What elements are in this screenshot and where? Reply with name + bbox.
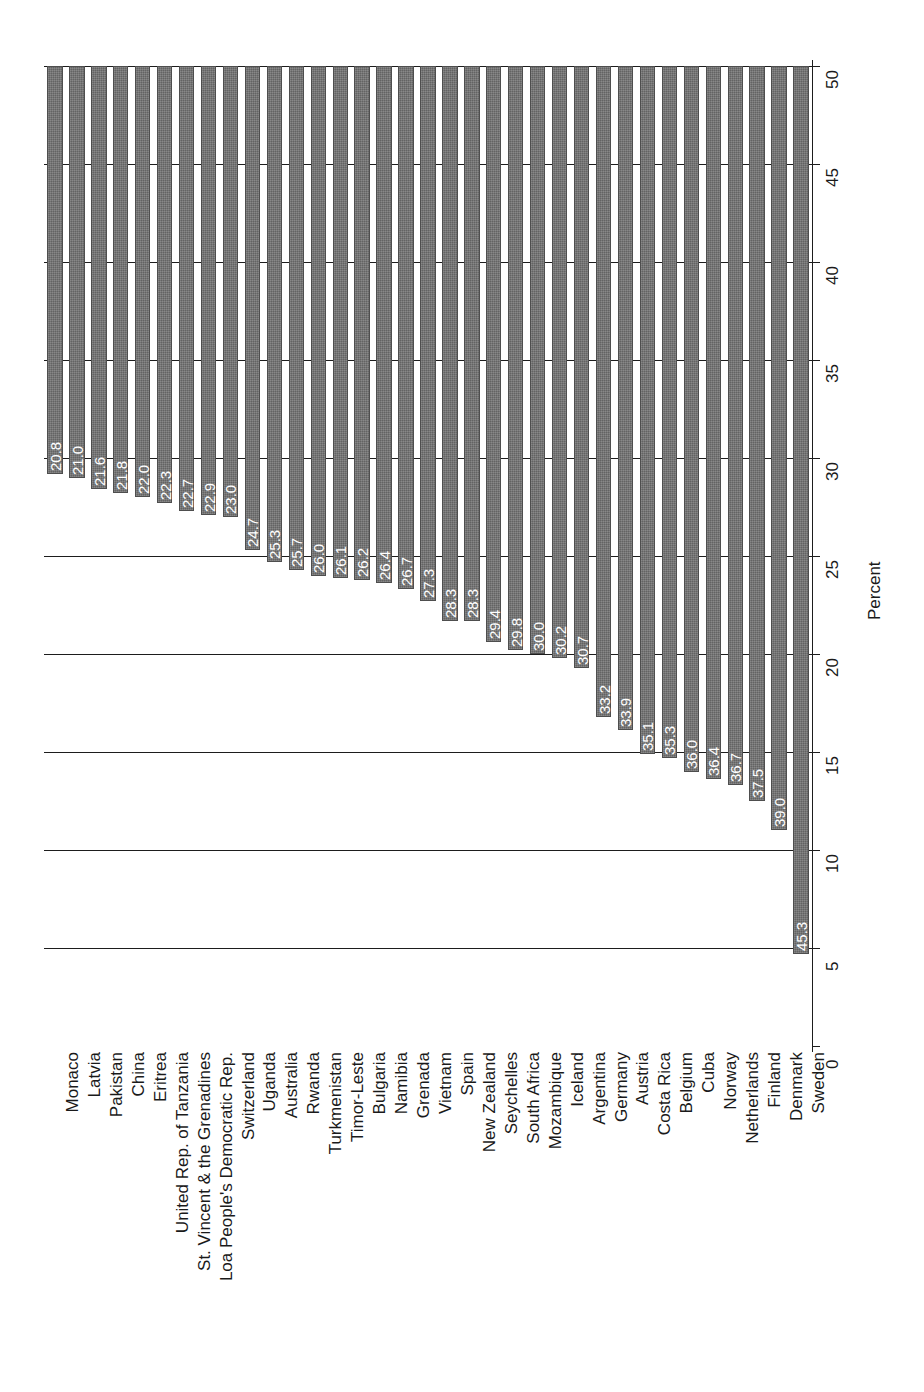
bar[interactable]: 26.1 [333,66,348,578]
bar[interactable]: 29.4 [486,66,501,642]
value-axis-tick [813,556,820,557]
value-axis-tick [813,262,820,263]
bar[interactable]: 21.6 [91,66,106,489]
bar[interactable]: 33.2 [596,66,611,717]
bar-slot: 37.5 [746,66,768,1046]
category-label: Switzerland [239,1052,256,1140]
bar[interactable]: 27.3 [420,66,435,601]
bar[interactable]: 30.2 [552,66,567,658]
bar-value-label: 25.7 [289,538,304,567]
value-axis-tick [813,164,820,165]
bar-slot: 22.0 [132,66,154,1046]
bar-slot: 20.8 [44,66,66,1046]
bar[interactable]: 30.7 [574,66,589,668]
bar[interactable]: 20.8 [47,66,62,474]
bar-value-label: 45.3 [794,922,809,951]
bar[interactable]: 22.9 [201,66,216,515]
bar-slot: 39.0 [768,66,790,1046]
bar[interactable]: 36.7 [728,66,743,785]
category-label: Namibia [393,1052,410,1114]
category-label: Spain [458,1052,475,1095]
bar[interactable]: 33.9 [618,66,633,730]
value-axis-tick-label: 15 [824,729,841,775]
bar[interactable]: 36.0 [684,66,699,772]
bar-slot: 30.2 [549,66,571,1046]
category-label: Australia [283,1052,300,1118]
category-label: Seychelles [502,1052,519,1134]
bar-slot: 36.0 [680,66,702,1046]
bar-value-label: 26.0 [311,543,326,572]
bar-slot: 22.3 [154,66,176,1046]
bar-value-label: 28.3 [464,588,479,617]
bar[interactable]: 24.7 [245,66,260,550]
value-axis-tick [813,850,820,851]
bar[interactable]: 21.0 [69,66,84,478]
bar[interactable]: 26.0 [311,66,326,576]
chart-page: 20.821.021.621.822.022.322.722.923.024.7… [0,0,924,1392]
bar-slot: 26.1 [329,66,351,1046]
bar-value-label: 22.7 [179,479,194,508]
bar[interactable]: 22.0 [135,66,150,497]
bar-slot: 23.0 [220,66,242,1046]
bar-value-label: 21.6 [91,457,106,486]
value-axis-tick [813,66,820,67]
value-axis-tick-label: 50 [824,43,841,89]
category-label: Finland [766,1052,783,1108]
category-label: United Rep. of Tanzania [173,1052,190,1233]
bar[interactable]: 30.0 [530,66,545,654]
bar-slot: 25.3 [263,66,285,1046]
value-axis-tick-label: 30 [824,435,841,481]
category-label: Iceland [568,1052,585,1107]
value-axis-tick-label: 20 [824,631,841,677]
bar-value-label: 29.4 [486,610,501,639]
category-label: Cuba [700,1052,717,1093]
bar[interactable]: 35.1 [640,66,655,754]
bars-group: 20.821.021.621.822.022.322.722.923.024.7… [44,66,812,1046]
bar[interactable]: 29.8 [508,66,523,650]
category-label: Argentina [590,1052,607,1125]
bar[interactable]: 28.3 [442,66,457,621]
bar[interactable]: 22.7 [179,66,194,511]
category-label: Bulgaria [371,1052,388,1114]
category-label: Rwanda [305,1052,322,1114]
category-label: Netherlands [744,1052,761,1144]
bar-value-label: 29.8 [508,618,523,647]
bar-value-label: 26.7 [399,557,414,586]
bar-slot: 30.7 [571,66,593,1046]
bar-slot: 28.3 [461,66,483,1046]
bar[interactable]: 21.8 [113,66,128,493]
bar[interactable]: 36.4 [706,66,721,779]
category-label: South Africa [524,1052,541,1144]
category-label: China [129,1052,146,1096]
bar[interactable]: 25.7 [289,66,304,570]
bar[interactable]: 25.3 [267,66,282,562]
bar[interactable]: 35.3 [662,66,677,758]
category-label: Sweden [810,1052,827,1113]
bar[interactable]: 39.0 [771,66,786,830]
category-label: Norway [722,1052,739,1110]
bar-value-label: 27.3 [420,569,435,598]
bar[interactable]: 26.4 [376,66,391,583]
bar[interactable]: 28.3 [464,66,479,621]
bar-value-label: 25.3 [267,530,282,559]
bar-slot: 36.4 [702,66,724,1046]
category-label: St. Vincent & the Grenadines [195,1052,212,1271]
bar-value-label: 28.3 [442,588,457,617]
bar-slot: 25.7 [285,66,307,1046]
category-label: Belgium [678,1052,695,1113]
bar-slot: 36.7 [724,66,746,1046]
bar[interactable]: 26.7 [398,66,413,589]
bar[interactable]: 37.5 [749,66,764,801]
bar[interactable]: 23.0 [223,66,238,517]
bar-value-label: 26.2 [355,547,370,576]
bar-slot: 26.4 [373,66,395,1046]
bar[interactable]: 45.3 [793,66,808,954]
bar[interactable]: 26.2 [354,66,369,580]
bar-slot: 30.0 [527,66,549,1046]
bar-value-label: 33.9 [618,698,633,727]
category-label: Pakistan [107,1052,124,1117]
bar-slot: 22.7 [176,66,198,1046]
bar-value-label: 22.3 [157,471,172,500]
bar-slot: 29.4 [483,66,505,1046]
bar[interactable]: 22.3 [157,66,172,503]
